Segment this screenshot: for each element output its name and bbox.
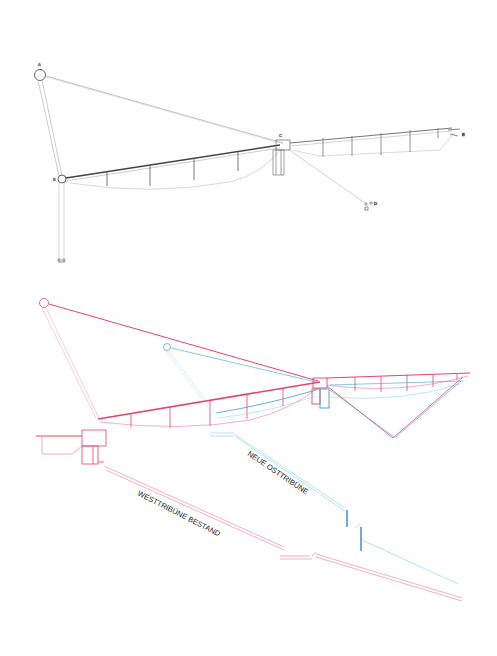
west-base-structure [36,430,106,464]
main-girder [66,145,280,178]
node-label-a: A [38,62,41,67]
east-mast [166,351,210,410]
east-v-tie-left [330,390,394,437]
backstay-cable [46,76,283,143]
east-v-tie-right [396,381,461,437]
anchor-node: D [365,201,377,210]
east-main-girder [216,390,316,413]
mast [38,80,59,176]
west-mast [42,308,96,418]
hangers-right [323,128,438,157]
east-stair-steps [347,510,361,551]
west-cantilever-lower [327,376,468,388]
central-pier [273,150,284,175]
drawing-canvas: A B [0,0,497,656]
west-mast-top-node [40,299,49,308]
tip-detail: E [448,129,465,137]
node-label-d: D [374,201,377,206]
lower-chord [70,150,280,189]
node-label-c: C [279,133,282,138]
bottom-overlay-section: NEUE OSTTRIBÜNE WESTTRIBÜNE BESTAND [36,299,470,602]
node-label-e: E [462,132,465,137]
west-backstay [49,304,318,381]
mast-top-node: A [35,62,46,81]
east-backstay [171,348,316,382]
tie-down-cable [288,149,365,203]
west-seating-rake [104,466,462,601]
support-symbol [57,258,66,262]
west-lower-chord [100,388,318,427]
east-cantilever-upper [330,381,463,385]
west-hangers [131,388,283,428]
east-central-pier [320,389,329,408]
cantilever-upper [290,128,452,143]
east-mast-top-node [164,344,171,351]
top-structural-section: A B [35,62,466,262]
west-cantilever-upper [327,373,470,378]
node-label-b: B [53,177,56,182]
label-east-stand: NEUE OSTTRIBÜNE [246,449,310,496]
mast-base-node [58,175,66,183]
